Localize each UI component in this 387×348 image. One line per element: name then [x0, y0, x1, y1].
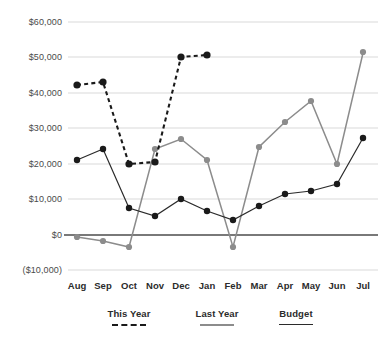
legend-label: Last Year: [184, 308, 250, 319]
legend-item-this-year[interactable]: This Year: [96, 308, 162, 326]
x-axis-tick-label: Jul: [343, 280, 383, 291]
legend-label: Budget: [263, 308, 329, 319]
legend-swatch-dashed-icon: [112, 324, 146, 326]
series-last-year: [74, 49, 366, 250]
legend-swatch-solid-gray-icon: [200, 324, 234, 326]
gridlines: [68, 22, 378, 270]
series-budget: [74, 135, 366, 223]
legend-item-budget[interactable]: Budget: [263, 308, 329, 325]
chart-container: $60,000 $50,000 $40,000 $30,000 $20,000 …: [0, 0, 387, 348]
legend-swatch-solid-black-icon: [279, 324, 313, 325]
series-this-year: [73, 51, 210, 167]
legend-item-last-year[interactable]: Last Year: [184, 308, 250, 326]
plot-area: [0, 0, 387, 348]
legend-label: This Year: [96, 308, 162, 319]
